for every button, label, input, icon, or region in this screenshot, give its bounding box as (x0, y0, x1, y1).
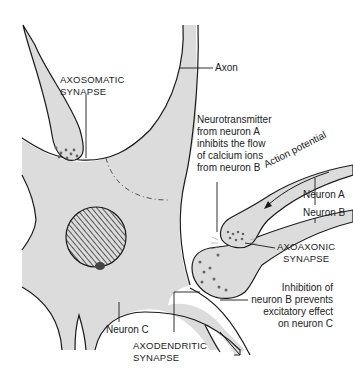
label-line: Neurotransmitter (197, 114, 271, 126)
label-line: excitatory effect (250, 306, 333, 318)
label-line: AXODENDRITIC (133, 340, 207, 352)
label-line: Inhibition of (250, 282, 333, 294)
label-line: SYNAPSE (133, 352, 207, 364)
label-line: on neuron C (250, 318, 333, 330)
neuron-c-label: Neuron C (106, 324, 149, 336)
neuron-a-label: Neuron A (303, 189, 345, 201)
label-line: from neuron A (197, 126, 271, 138)
label-line: SYNAPSE (277, 253, 335, 265)
label-line: AXOSOMATIC (60, 74, 125, 86)
label-line: inhibits the flow (197, 138, 271, 150)
label-line: AXOAXONIC (277, 241, 335, 253)
axosomatic-synapse-label: AXOSOMATIC SYNAPSE (60, 74, 125, 98)
nucleolus (95, 262, 105, 270)
neurotransmitter-note: Neurotransmitter from neuron A inhibits … (197, 114, 271, 174)
label-line: SYNAPSE (60, 86, 125, 98)
label-line: neuron B prevents (250, 294, 333, 306)
axodendritic-synapse-label: AXODENDRITIC SYNAPSE (133, 340, 207, 364)
axon-label: Axon (215, 62, 238, 74)
label-line: of calcium ions (197, 150, 271, 162)
label-line: from neuron B (197, 162, 271, 174)
inhibition-note: Inhibition of neuron B prevents excitato… (250, 282, 333, 330)
axoaxonic-synapse-label: AXOAXONIC SYNAPSE (277, 241, 335, 265)
neuron-b-label: Neuron B (303, 207, 345, 219)
neuron-c-body (22, 25, 250, 355)
nucleus (66, 207, 126, 267)
